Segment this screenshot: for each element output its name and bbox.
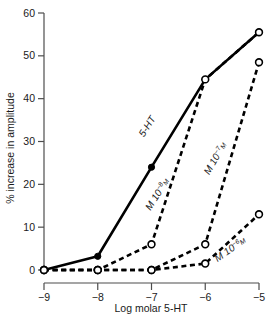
data-point-marker xyxy=(202,260,209,267)
curve-label-text: M 10−6M xyxy=(212,234,248,264)
series-line-2 xyxy=(44,32,259,270)
data-point-marker xyxy=(256,29,263,36)
data-point-marker xyxy=(94,267,101,274)
data-point-marker xyxy=(256,211,263,218)
data-point-marker xyxy=(95,253,101,259)
y-axis-title: % increase in amplitude xyxy=(4,92,16,204)
y-tick-label: 0 xyxy=(29,264,35,276)
dose-response-chart: 0102030405060 −9−8−7−6−5 5-HTM 10−8MM 10… xyxy=(0,0,279,321)
curve-label-text: 5-HT xyxy=(136,113,158,138)
x-tick-label: −9 xyxy=(38,291,50,303)
y-axis-ticks: 0102030405060 xyxy=(23,7,44,276)
curve-label-1: 5-HT xyxy=(136,113,158,138)
x-axis-title: Log molar 5-HT xyxy=(115,302,189,314)
data-point-marker xyxy=(202,241,209,248)
curve-label-3: M 10−7M xyxy=(201,140,229,177)
data-point-marker xyxy=(202,76,209,83)
curve-label-text: M 10−7M xyxy=(201,140,229,177)
data-point-marker xyxy=(148,267,155,274)
x-tick-label: −5 xyxy=(253,291,265,303)
data-point-marker xyxy=(41,267,48,274)
curve-label-4: M 10−6M xyxy=(212,234,248,264)
data-point-marker xyxy=(148,164,154,170)
x-axis-ticks: −9−8−7−6−5 xyxy=(38,283,265,303)
data-point-marker xyxy=(148,241,155,248)
y-tick-label: 60 xyxy=(23,7,35,19)
data-point-marker xyxy=(256,59,263,66)
y-tick-label: 10 xyxy=(23,221,35,233)
y-tick-label: 40 xyxy=(23,92,35,104)
series-line-1 xyxy=(44,32,259,270)
y-tick-label: 20 xyxy=(23,178,35,190)
chart-figure: 0102030405060 −9−8−7−6−5 5-HTM 10−8MM 10… xyxy=(0,0,279,321)
y-tick-label: 30 xyxy=(23,135,35,147)
x-tick-label: −8 xyxy=(92,291,104,303)
x-tick-label: −6 xyxy=(199,291,211,303)
y-tick-label: 50 xyxy=(23,49,35,61)
chart-series-group xyxy=(41,29,263,274)
